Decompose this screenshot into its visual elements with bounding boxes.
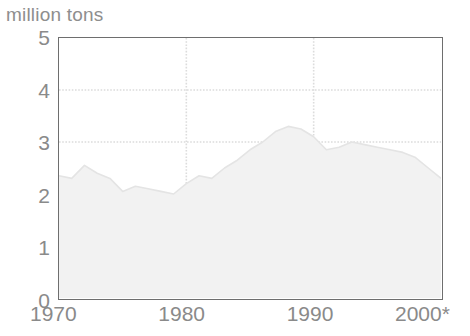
- y-axis-title: million tons: [6, 4, 103, 26]
- y-tick-label: 4: [0, 79, 50, 100]
- series-area-fill: [59, 126, 441, 298]
- x-tick-label: 2000*: [395, 303, 450, 324]
- x-tick-label: 1980: [158, 303, 205, 324]
- y-tick-label: 2: [0, 184, 50, 205]
- chart-container: million tons 012345 1970198019902000*: [0, 0, 470, 336]
- area-chart-svg: [59, 38, 441, 298]
- y-tick-label: 0: [0, 290, 50, 311]
- x-tick-label: 1990: [287, 303, 334, 324]
- plot-inner: [59, 38, 442, 299]
- y-tick-label: 3: [0, 132, 50, 153]
- y-tick-label: 1: [0, 237, 50, 258]
- y-tick-label: 5: [0, 27, 50, 48]
- x-tick-label: 1970: [30, 303, 77, 324]
- plot-area: [58, 37, 443, 300]
